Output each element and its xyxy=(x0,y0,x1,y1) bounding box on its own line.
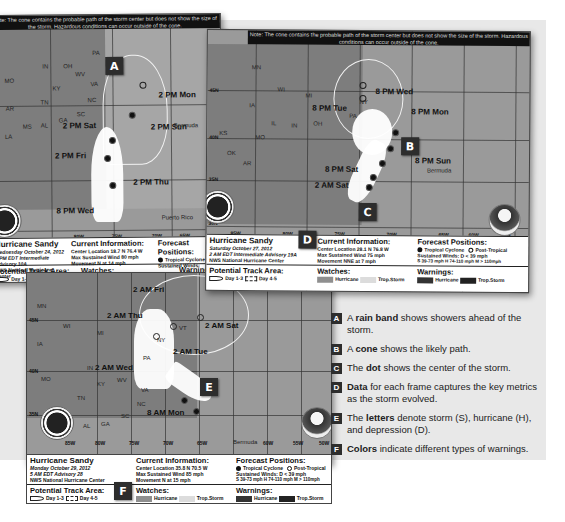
lon-label: 70W xyxy=(163,440,173,446)
forecast-tropical: Tropical Cyclone xyxy=(243,465,283,471)
time-label: 2 AM Thu xyxy=(107,311,143,320)
state-label: IA xyxy=(249,102,255,108)
legend-text-post: indicate different types of warnings. xyxy=(377,443,528,454)
warn-hurricane-label: Hurricane xyxy=(254,495,277,501)
state-label: KY xyxy=(97,381,105,387)
state-label: NC xyxy=(137,401,146,407)
time-label: 2 AM Sat xyxy=(315,181,349,190)
legend-text-bold: letters xyxy=(366,412,395,423)
legend-item-c: C The dot shows the center of the storm. xyxy=(331,362,543,374)
lon-label: 75W xyxy=(129,440,139,446)
state-label: TN xyxy=(77,395,85,401)
state-label: VA xyxy=(90,81,98,87)
map-note: Note: The cone contains the probable pat… xyxy=(248,30,530,46)
state-label: AL xyxy=(83,423,90,429)
track-dot xyxy=(387,145,394,152)
state-label: VA xyxy=(141,387,149,393)
noaa-logo-icon xyxy=(301,407,332,439)
day13-track-icon xyxy=(0,277,9,282)
ts-warning-swatch xyxy=(279,496,295,502)
state-label: SC xyxy=(121,413,129,419)
forecast-title: Forecast Positions: xyxy=(236,456,326,465)
time-label: 2 PM Sat xyxy=(63,121,96,130)
legend-badge: A xyxy=(331,313,342,324)
hurricane-warning-swatch xyxy=(236,496,252,502)
time-label: 2 PM Mon xyxy=(159,90,196,99)
lon-label: 80W xyxy=(95,440,105,446)
legend-badge: F xyxy=(331,444,342,455)
track-dot xyxy=(109,182,116,189)
time-label: 2 PM Fri xyxy=(55,151,86,160)
time-label: 2 AM Sat xyxy=(205,321,239,330)
day45-track-icon xyxy=(245,276,257,281)
storm-info-panel-oct29: Hurricane Sandy Monday October 29, 2012 … xyxy=(26,454,332,504)
watch-ts-label: Trop.Storm xyxy=(197,495,224,501)
state-label: AR xyxy=(243,160,251,166)
legend-item-b: B A cone shows the likely path. xyxy=(331,343,543,355)
forecast-post-tropical: Post-Tropical xyxy=(294,465,326,471)
track-dot xyxy=(109,137,116,144)
state-label: NC xyxy=(88,97,97,103)
noaa-logo-icon xyxy=(488,204,520,236)
hurricane-watch-swatch xyxy=(317,276,333,282)
lat-label: 35N xyxy=(209,176,218,182)
track-dot xyxy=(181,397,188,404)
forecast-scale: S 39-73 mph H 74-110 mph M > 110mph xyxy=(417,259,507,266)
time-label: 8 PM Tue xyxy=(312,104,347,113)
hurricane-map-oct29: 2 AM Fri 2 AM Thu 2 AM Sat 2 AM Tue 2 AM… xyxy=(26,272,332,464)
state-label: NY xyxy=(157,337,165,343)
ts-warning-swatch xyxy=(460,277,476,283)
state-label: WV xyxy=(75,71,85,77)
time-label: 2 AM Fri xyxy=(133,285,164,294)
day13-label: Day 1-3 xyxy=(46,495,64,501)
movement: Movement NNE at 7 mph xyxy=(317,258,411,265)
track-dot xyxy=(379,160,386,167)
ts-watch-swatch xyxy=(179,496,195,502)
day13-track-icon xyxy=(209,276,223,281)
lat-label: 40N xyxy=(209,134,218,140)
map-note: Note: The cone contains the probable pat… xyxy=(0,14,220,30)
movement: Movement N at 15 mph xyxy=(136,477,230,483)
legend-item-e: E The letters denote storm (S), hurrican… xyxy=(331,412,543,436)
place-label: Puerto Rico xyxy=(162,214,193,220)
time-label: 2 AM Wed xyxy=(95,363,133,372)
storm-info-panel: Hurricane Sandy Saturday October 27, 201… xyxy=(206,234,528,292)
state-label: OH xyxy=(63,63,72,69)
time-label: 8 PM Mon xyxy=(411,107,448,116)
legend-item-a: A A rain band shows showers ahead of the… xyxy=(331,312,543,336)
place-label: Bermuda xyxy=(174,122,198,128)
state-label: VT xyxy=(179,325,187,331)
warnings-title: Warnings: xyxy=(236,486,323,495)
place-label: Bermuda xyxy=(233,439,257,445)
watches-title: Watches: xyxy=(136,486,230,495)
state-label: SC xyxy=(77,111,85,117)
state-label: MN xyxy=(37,303,46,309)
state-label: GA xyxy=(59,117,68,123)
state-label: PA xyxy=(143,355,151,361)
state-label: KY xyxy=(52,85,60,91)
lat-label: 45N xyxy=(209,87,218,93)
annotation-legend: A A rain band shows showers ahead of the… xyxy=(331,312,543,462)
lon-label: 85W xyxy=(65,440,75,446)
day45-label: Day 4-5 xyxy=(259,275,277,281)
warn-ts-label: Trop.Storm xyxy=(297,495,324,501)
issuing-center: NWS National Hurricane Center xyxy=(209,257,311,264)
time-label: 2 AM Tue xyxy=(173,347,208,356)
legend-badge: D xyxy=(331,382,342,393)
track-dot xyxy=(392,129,399,136)
day45-label: Day 4-5 xyxy=(80,495,98,501)
hurricane-warning-swatch xyxy=(417,277,433,283)
state-label: MI xyxy=(305,93,312,99)
warn-ts-label: Trop.Storm xyxy=(478,277,505,283)
lon-label: 55W xyxy=(293,440,303,446)
state-label: OH xyxy=(313,121,322,127)
track-dot xyxy=(197,314,204,321)
day13-track-icon xyxy=(30,496,44,501)
current-info-title: Current Information: xyxy=(136,456,230,465)
day13-label: Day 1-3 xyxy=(225,275,243,281)
state-label: IA xyxy=(37,341,43,347)
state-label: AR xyxy=(6,106,14,112)
state-label: MN xyxy=(252,64,261,70)
state-label: MS xyxy=(23,124,32,130)
track-dot xyxy=(104,155,111,162)
